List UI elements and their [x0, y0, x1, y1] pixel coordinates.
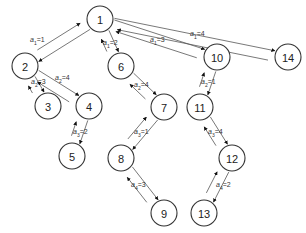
node-label: 14	[282, 52, 294, 64]
node-8: 8	[108, 145, 134, 171]
edge-label: a4=2	[216, 181, 231, 191]
node-label: 6	[118, 61, 124, 73]
node-3: 3	[35, 93, 61, 119]
edge-1-2: a1=1	[30, 23, 90, 61]
node-label: 13	[198, 208, 210, 220]
up-arrow	[28, 86, 32, 93]
edge-label: a3=1	[134, 128, 149, 138]
edge-7-8: a3=1	[128, 117, 158, 150]
node-label: 1	[97, 14, 103, 26]
node-11: 11	[187, 94, 213, 120]
node-label: 9	[161, 208, 167, 220]
tree-diagram: a1=1a1=2a1=3a1=4a2=3a2=4a3=2a2=4a3=1a4=3…	[0, 0, 306, 233]
edge-label: a2=4	[134, 81, 149, 91]
edge-label: a3=2	[73, 128, 88, 138]
edge-label: a4=3	[131, 181, 146, 191]
node-label: 7	[161, 102, 167, 114]
node-6: 6	[108, 53, 134, 79]
node-12: 12	[219, 145, 245, 171]
node-4: 4	[76, 93, 102, 119]
node-13: 13	[191, 200, 217, 226]
node-label: 4	[86, 101, 92, 113]
node-label: 11	[194, 102, 205, 114]
node-2: 2	[12, 53, 38, 79]
node-label: 5	[69, 151, 75, 163]
edge-label: a2=4	[55, 74, 70, 84]
node-5: 5	[59, 143, 85, 169]
node-7: 7	[151, 94, 177, 120]
edge-label: a1=1	[30, 36, 45, 46]
edge-2-3: a2=3	[28, 76, 45, 93]
edge-1-6: a1=2	[101, 30, 118, 51]
edge-8-9: a4=3	[127, 167, 158, 202]
edge-11-12: a3=4	[204, 117, 227, 146]
node-label: 10	[211, 52, 223, 64]
node-9: 9	[151, 200, 177, 226]
edge-label: a2=1	[201, 78, 216, 88]
edge-12-13: a4=2	[206, 172, 230, 202]
node-label: 8	[118, 153, 124, 165]
node-1: 1	[87, 6, 113, 32]
node-14: 14	[275, 44, 301, 70]
down-arrow	[39, 29, 90, 61]
node-label: 2	[22, 61, 28, 73]
node-10: 10	[204, 44, 230, 70]
edge-1-10: a1=3	[114, 20, 204, 58]
edge-10-11: a2=1	[199, 71, 215, 94]
edge-label: a1=4	[190, 30, 205, 40]
edge-6-7: a2=4	[130, 73, 156, 99]
node-label: 3	[45, 101, 51, 113]
edge-4-5: a3=2	[71, 120, 87, 143]
node-label: 12	[226, 153, 238, 165]
